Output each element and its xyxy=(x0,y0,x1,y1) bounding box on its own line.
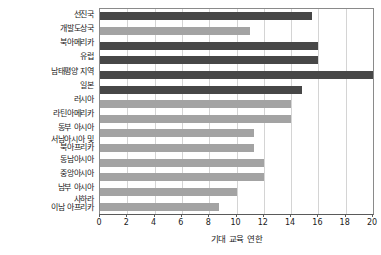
plot-area xyxy=(99,8,374,215)
category-label: 선진국 xyxy=(0,8,97,22)
x-tick-mark xyxy=(372,214,373,217)
category-label: 동남아시아 xyxy=(0,153,97,167)
x-tick-label: 20 xyxy=(367,218,377,227)
category-label: 동부 아시아 xyxy=(0,122,97,136)
bar-row[interactable] xyxy=(100,38,373,53)
x-tick-mark xyxy=(208,214,209,217)
bar[interactable] xyxy=(100,144,254,152)
bar[interactable] xyxy=(100,100,291,108)
category-label: 사하라 이남 아프리카 xyxy=(0,196,97,213)
category-label: 서남아시아 및 북아프리카 xyxy=(0,136,97,153)
bar[interactable] xyxy=(100,86,302,94)
category-label: 러시아 xyxy=(0,93,97,107)
x-tick-mark xyxy=(263,214,264,217)
x-tick-label: 2 xyxy=(124,218,129,227)
bar-row[interactable] xyxy=(100,9,373,24)
bar-row[interactable] xyxy=(100,53,373,68)
x-tick-mark xyxy=(345,214,346,217)
bar-row[interactable] xyxy=(100,141,373,156)
bar[interactable] xyxy=(100,115,291,123)
x-tick-mark xyxy=(290,214,291,217)
bar-row[interactable] xyxy=(100,199,373,214)
x-tick-label: 8 xyxy=(206,218,211,227)
bar-chart: 선진국개발도상국북아메리카유럽남태평양 지역일본러시아라틴아메리카동부 아시아서… xyxy=(0,0,381,255)
bar-row[interactable] xyxy=(100,185,373,200)
x-tick-mark xyxy=(126,214,127,217)
x-tick-label: 4 xyxy=(151,218,156,227)
bar[interactable] xyxy=(100,159,264,167)
category-label: 남부 아시아 xyxy=(0,181,97,195)
bar[interactable] xyxy=(100,129,254,137)
category-label: 남태평양 지역 xyxy=(0,65,97,79)
bar-row[interactable] xyxy=(100,170,373,185)
bar[interactable] xyxy=(100,188,237,196)
bar[interactable] xyxy=(100,42,318,50)
bar[interactable] xyxy=(100,27,250,35)
x-tick-label: 6 xyxy=(178,218,183,227)
category-label: 일본 xyxy=(0,79,97,93)
x-tick-label: 0 xyxy=(96,218,101,227)
bar[interactable] xyxy=(100,12,312,20)
x-tick-mark xyxy=(99,214,100,217)
bar[interactable] xyxy=(100,173,264,181)
category-label: 개발도상국 xyxy=(0,22,97,36)
bar-row[interactable] xyxy=(100,111,373,126)
bar-row[interactable] xyxy=(100,82,373,97)
category-label: 북아메리카 xyxy=(0,36,97,50)
bar-row[interactable] xyxy=(100,126,373,141)
x-tick-mark xyxy=(154,214,155,217)
category-label: 중앙아시아 xyxy=(0,167,97,181)
bar-row[interactable] xyxy=(100,68,373,83)
bar[interactable] xyxy=(100,71,373,79)
category-label: 라틴아메리카 xyxy=(0,107,97,121)
x-tick-mark xyxy=(236,214,237,217)
x-tick-label: 10 xyxy=(230,218,240,227)
x-axis: 02468101214161820 xyxy=(99,214,374,230)
x-tick-label: 16 xyxy=(312,218,322,227)
x-tick-label: 14 xyxy=(285,218,295,227)
bar-row[interactable] xyxy=(100,155,373,170)
x-tick-mark xyxy=(181,214,182,217)
bar-row[interactable] xyxy=(100,24,373,39)
x-tick-mark xyxy=(317,214,318,217)
category-label: 유럽 xyxy=(0,51,97,65)
bar[interactable] xyxy=(100,56,318,64)
bar[interactable] xyxy=(100,203,219,211)
bar-row[interactable] xyxy=(100,97,373,112)
x-tick-label: 18 xyxy=(340,218,350,227)
category-axis-labels: 선진국개발도상국북아메리카유럽남태평양 지역일본러시아라틴아메리카동부 아시아서… xyxy=(0,8,97,213)
x-tick-label: 12 xyxy=(258,218,268,227)
bar-series xyxy=(100,9,373,214)
x-axis-title: 기대 교육 연한 xyxy=(99,232,374,244)
